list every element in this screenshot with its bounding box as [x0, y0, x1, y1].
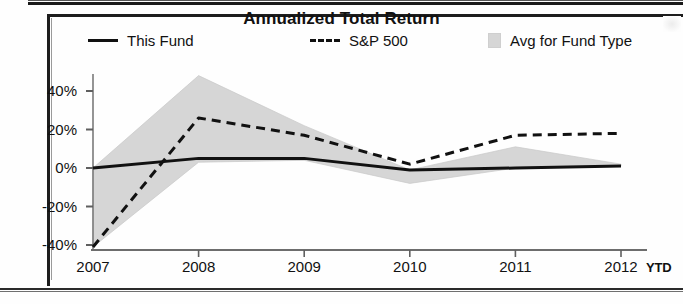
y-axis-tick-label: 0%: [17, 159, 77, 176]
x-axis-tick-label: 2011: [480, 258, 550, 275]
x-axis-tick-label: 2008: [164, 258, 234, 275]
outer-frame-bottom-hairline: [0, 291, 683, 292]
ytd-label-clip: YTD: [641, 254, 683, 278]
outer-frame-bottom-rule: [0, 288, 683, 290]
y-axis-tick-label: 20%: [17, 121, 77, 138]
y-axis-tick-label: -40%: [17, 236, 77, 253]
y-axis-tick-label: -20%: [17, 198, 77, 215]
x-axis-tick-label: 2009: [269, 258, 339, 275]
x-axis-tick-label: 2007: [58, 258, 128, 275]
x-axis-ytd-label: YTD: [646, 260, 671, 275]
y-axis-tick-label: 40%: [17, 82, 77, 99]
chart-panel: Annualized Total Return This Fund S&P 50…: [0, 0, 683, 304]
x-axis-tick-label: 2010: [375, 258, 445, 275]
